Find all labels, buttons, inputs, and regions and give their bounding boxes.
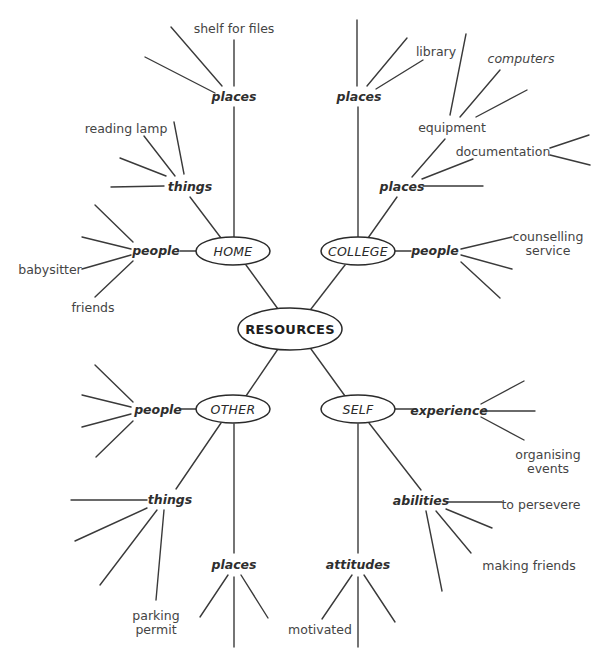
edge-college-people-to-spoke bbox=[461, 255, 512, 269]
edge-college-places1-to-spoke bbox=[367, 38, 407, 86]
category-college-people: people bbox=[410, 243, 459, 258]
edge-resources-to-college bbox=[311, 265, 345, 309]
category-other-places: places bbox=[211, 557, 257, 572]
edge-college-to-college-places2 bbox=[368, 197, 397, 238]
edge-other-people-to-spoke bbox=[95, 365, 133, 402]
leaf-equipment: equipment bbox=[418, 120, 486, 135]
leaf-to-persevere: to persevere bbox=[501, 497, 580, 512]
category-home-places: places bbox=[211, 89, 257, 104]
edge-other-things-to-spoke bbox=[75, 508, 147, 541]
leaf-library: library bbox=[416, 44, 457, 59]
leaf-parking-permit-1: parking bbox=[132, 608, 179, 623]
edge-home-places-to-spoke bbox=[145, 57, 215, 93]
edge-home-people-to-spoke bbox=[95, 205, 133, 242]
edge-home-things-to-spoke bbox=[120, 158, 166, 176]
leaf-shelf-for-files: shelf for files bbox=[194, 21, 275, 36]
branch-node-college: COLLEGE bbox=[321, 237, 395, 265]
edge-equipment-to-spoke bbox=[476, 90, 527, 117]
edge-college-places1-to-library bbox=[376, 60, 423, 89]
edge-resources-to-home bbox=[246, 265, 278, 309]
leaf-computers: computers bbox=[488, 51, 555, 66]
edge-home-people-to-friends bbox=[95, 261, 133, 297]
category-other-people: people bbox=[133, 402, 182, 417]
category-self-experience: experience bbox=[410, 403, 488, 418]
resources-mind-map: RESOURCES HOME COLLEGE OTHER SELF places… bbox=[0, 0, 610, 668]
edge-documentation-to-spoke bbox=[550, 135, 589, 148]
edge-home-to-home-things bbox=[190, 197, 221, 238]
edge-self-attitudes-to-spoke bbox=[364, 575, 395, 622]
self-label: SELF bbox=[342, 402, 374, 417]
category-college-places2: places bbox=[379, 179, 425, 194]
edge-home-things-to-spoke bbox=[111, 186, 164, 187]
leaf-parking-permit-2: permit bbox=[135, 622, 176, 637]
edge-equipment-to-computers bbox=[460, 70, 500, 117]
home-label: HOME bbox=[213, 244, 252, 259]
edge-other-things-to-spoke bbox=[100, 510, 157, 585]
resources-label: RESOURCES bbox=[245, 322, 334, 337]
edge-self-abilities-to-spoke bbox=[426, 511, 442, 591]
branch-node-other: OTHER bbox=[196, 395, 270, 423]
leaf-documentation: documentation bbox=[456, 144, 551, 159]
edge-resources-to-other bbox=[246, 349, 278, 396]
college-label: COLLEGE bbox=[328, 244, 388, 259]
edge-documentation-to-spoke bbox=[550, 155, 590, 165]
edge-other-things-to-parking-permit bbox=[156, 510, 164, 600]
edge-college-people-to-counselling-service bbox=[461, 237, 512, 249]
edge-self-experience-to-organising-events bbox=[481, 417, 524, 440]
category-self-attitudes: attitudes bbox=[326, 557, 390, 572]
branch-node-self: SELF bbox=[321, 395, 395, 423]
leaf-babysitter: babysitter bbox=[18, 262, 82, 277]
edge-home-people-to-babysitter bbox=[82, 255, 131, 269]
edge-self-abilities-to-spoke bbox=[446, 509, 492, 528]
leaf-counselling-service-1: counselling bbox=[513, 229, 584, 244]
edge-other-people-to-spoke bbox=[96, 421, 133, 457]
edge-home-things-to-reading-lamp bbox=[144, 136, 175, 176]
edge-college-places2-to-documentation bbox=[422, 159, 473, 179]
edge-resources-to-self bbox=[311, 349, 345, 396]
branch-node-home: HOME bbox=[196, 237, 270, 265]
category-home-people: people bbox=[131, 243, 180, 258]
leaf-reading-lamp: reading lamp bbox=[85, 121, 168, 136]
leaf-organising-events-1: organising bbox=[515, 447, 580, 462]
edge-other-places-to-spoke bbox=[200, 575, 228, 617]
leaf-organising-events-2: events bbox=[527, 461, 569, 476]
edge-self-experience-to-spoke bbox=[481, 381, 524, 404]
edge-other-to-other-things bbox=[176, 423, 221, 489]
leaf-motivated: motivated bbox=[288, 622, 352, 637]
central-node-resources: RESOURCES bbox=[238, 308, 342, 350]
edge-home-things-to-spoke bbox=[174, 122, 184, 174]
edge-other-places-to-spoke bbox=[241, 575, 268, 618]
edge-self-to-self-abilities bbox=[369, 423, 421, 490]
leaf-making-friends: making friends bbox=[482, 558, 575, 573]
edge-other-people-to-spoke bbox=[82, 395, 131, 407]
edge-home-people-to-spoke bbox=[82, 237, 131, 249]
leaf-counselling-service-2: service bbox=[526, 243, 571, 258]
other-label: OTHER bbox=[211, 402, 256, 417]
leaf-friends: friends bbox=[71, 300, 114, 315]
branch-nodes: RESOURCES HOME COLLEGE OTHER SELF bbox=[196, 237, 395, 423]
category-home-things: things bbox=[168, 179, 212, 194]
edge-other-people-to-spoke bbox=[82, 414, 131, 427]
edge-self-attitudes-to-motivated bbox=[322, 575, 352, 619]
category-other-things: things bbox=[148, 492, 192, 507]
edge-college-people-to-spoke bbox=[461, 262, 500, 298]
category-self-abilities: abilities bbox=[393, 493, 449, 508]
category-college-places1: places bbox=[336, 89, 382, 104]
